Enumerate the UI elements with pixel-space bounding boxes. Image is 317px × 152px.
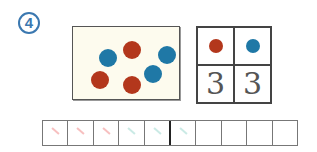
pencil-mark-icon [77, 127, 85, 134]
tally-grid: 3 3 [196, 26, 272, 104]
red-count: 3 [206, 69, 225, 99]
blue-dot-icon [99, 49, 117, 67]
grid-header-red [197, 27, 234, 65]
pencil-mark-icon [179, 127, 187, 134]
strip-cell[interactable] [171, 121, 196, 145]
exercise-number-badge: 4 [18, 12, 40, 34]
blue-count: 3 [243, 69, 262, 99]
dot-card [72, 26, 180, 100]
strip-cell[interactable] [119, 121, 144, 145]
grid-count-red[interactable]: 3 [197, 65, 234, 103]
blue-dot-icon [144, 65, 162, 83]
strip-cell[interactable] [94, 121, 119, 145]
grid-header-blue [234, 27, 271, 65]
strip-cell[interactable] [43, 121, 68, 145]
red-dot-icon [91, 71, 109, 89]
strip-cell[interactable] [247, 121, 272, 145]
ten-frame-strip [42, 120, 298, 146]
red-dot-icon [123, 41, 141, 59]
strip-cell[interactable] [222, 121, 247, 145]
grid-count-blue[interactable]: 3 [234, 65, 271, 103]
pencil-mark-icon [153, 127, 161, 134]
strip-cell[interactable] [273, 121, 297, 145]
blue-dot-icon [158, 46, 176, 64]
pencil-mark-icon [102, 127, 110, 134]
blue-dot-icon [246, 39, 260, 53]
strip-cell[interactable] [145, 121, 171, 145]
red-dot-icon [209, 39, 223, 53]
strip-cell[interactable] [196, 121, 221, 145]
pencil-mark-icon [128, 127, 136, 134]
pencil-mark-icon [51, 127, 59, 134]
strip-cell[interactable] [68, 121, 93, 145]
red-dot-icon [123, 76, 141, 94]
